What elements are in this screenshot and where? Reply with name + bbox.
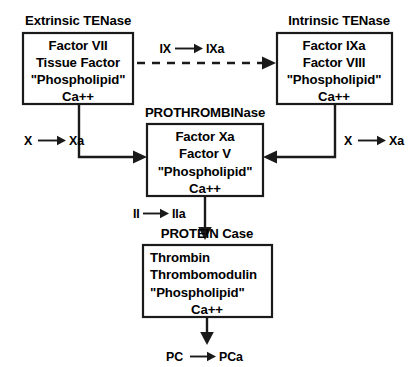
reaction-x-right-substrate: X	[344, 134, 353, 148]
reaction-pc-substrate: PC	[166, 350, 183, 364]
reaction-ixa-product: IXa	[206, 42, 225, 56]
protein-case-title: PROTEIN Case	[161, 226, 254, 241]
arrowhead-right-to-prothrombinase	[263, 151, 277, 164]
intrinsic-component-1: Factor VIII	[303, 55, 366, 70]
protein-case-component-3: Ca++	[191, 302, 223, 317]
arrowhead-left-to-prothrombinase	[133, 151, 147, 164]
reaction-ix-substrate: IX	[159, 42, 171, 56]
coagulation-cascade-diagram: Extrinsic TENase Intrinsic TENase PROTHR…	[0, 0, 414, 367]
reaction-x-to-xa-left: X Xa	[24, 134, 84, 148]
reaction-ii-substrate: II	[133, 207, 140, 221]
protein-case-component-2: "Phospholipid"	[150, 285, 245, 300]
intrinsic-component-0: Factor IXa	[303, 38, 367, 53]
prothrombinase-component-1: Factor V	[179, 146, 231, 161]
intrinsic-component-2: "Phospholipid"	[287, 72, 382, 87]
intrinsic-component-3: Ca++	[318, 89, 350, 104]
extrinsic-component-3: Ca++	[62, 89, 94, 104]
mini-arrowhead-ii	[160, 209, 169, 218]
connector-extrinsic-to-prothrombinase	[79, 104, 147, 164]
mini-arrowhead-pc	[207, 352, 216, 361]
elbow-right-line	[277, 104, 335, 157]
reaction-xa-left-product: Xa	[69, 134, 84, 148]
reaction-xa-right-product: Xa	[389, 134, 404, 148]
reaction-pca-product: PCa	[219, 350, 243, 364]
extrinsic-component-0: Factor VII	[48, 38, 107, 53]
extrinsic-component-2: "Phospholipid"	[31, 72, 126, 87]
mini-arrowhead-x-right	[377, 136, 386, 145]
connector-extrinsic-to-intrinsic	[137, 57, 276, 70]
reaction-ix-to-ixa: IX IXa	[159, 42, 224, 56]
mini-arrowhead-ix	[194, 44, 203, 53]
arrowhead-to-intrinsic	[262, 57, 276, 70]
reaction-ii-to-iia: II IIa	[133, 207, 186, 221]
prothrombinase-component-0: Factor Xa	[175, 129, 235, 144]
prothrombinase-title: PROTHROMBINase	[145, 105, 265, 120]
reaction-iia-product: IIa	[172, 207, 186, 221]
reaction-x-to-xa-right: X Xa	[344, 134, 404, 148]
intrinsic-tenase-title: Intrinsic TENase	[288, 13, 390, 28]
connector-intrinsic-to-prothrombinase	[263, 104, 335, 164]
reaction-x-left-substrate: X	[24, 134, 33, 148]
protein-case-component-1: Thrombomodulin	[150, 267, 257, 282]
reaction-pc-to-pca: PC PCa	[166, 350, 243, 364]
prothrombinase-component-2: "Phospholipid"	[158, 164, 253, 179]
extrinsic-tenase-title: Extrinsic TENase	[25, 13, 131, 28]
elbow-left-line	[79, 104, 133, 157]
connector-protein-case-to-pc	[200, 317, 214, 345]
mini-arrowhead-x-left	[57, 136, 66, 145]
extrinsic-component-1: Tissue Factor	[36, 55, 120, 70]
protein-case-component-0: Thrombin	[150, 250, 210, 265]
diagram-canvas: Extrinsic TENase Intrinsic TENase PROTHR…	[0, 0, 414, 367]
prothrombinase-component-3: Ca++	[189, 181, 221, 196]
arrowhead-to-pc	[200, 332, 214, 345]
